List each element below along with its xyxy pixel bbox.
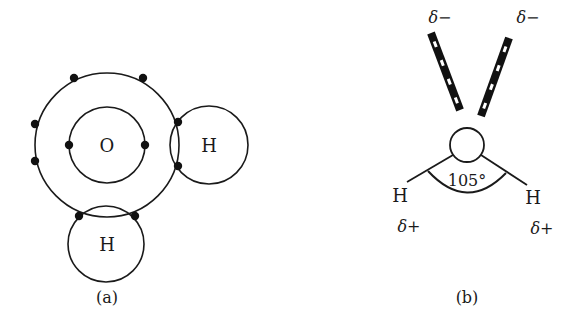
hydrogen-right-label: H	[201, 135, 217, 156]
water-molecule-diagram: O H H (a) 105° H H δ− δ− δ+ δ+ (b)	[0, 0, 579, 328]
electron-dot	[75, 212, 83, 220]
partial-charge-minus-right: δ−	[516, 8, 539, 27]
bond-right	[481, 155, 527, 185]
bond-left	[407, 155, 453, 182]
electron-dot	[174, 118, 182, 126]
partial-charge-plus-right: δ+	[530, 219, 553, 238]
electron-dot	[70, 74, 78, 82]
oxygen-label: O	[100, 135, 115, 156]
electron-dot	[31, 157, 39, 165]
oxygen-atom	[450, 128, 484, 162]
electron-dot	[141, 141, 149, 149]
hydrogen-left-label: H	[392, 185, 408, 206]
partial-charge-plus-left: δ+	[397, 217, 420, 236]
electron-dot	[65, 141, 73, 149]
electron-dot	[131, 212, 139, 220]
hydrogen-bottom-label: H	[99, 234, 115, 255]
hydrogen-right-label-b: H	[525, 187, 541, 208]
panel-b-caption: (b)	[456, 288, 479, 307]
electron-dot	[31, 120, 39, 128]
lone-pair-right	[481, 38, 509, 116]
lone-pair-left	[431, 33, 460, 110]
partial-charge-minus-left: δ−	[428, 8, 451, 27]
bond-angle-label: 105°	[448, 171, 487, 190]
panel-a-caption: (a)	[96, 288, 118, 307]
electron-dot	[139, 74, 147, 82]
panel-a-shell-diagram	[35, 73, 248, 282]
electron-dot	[174, 162, 182, 170]
